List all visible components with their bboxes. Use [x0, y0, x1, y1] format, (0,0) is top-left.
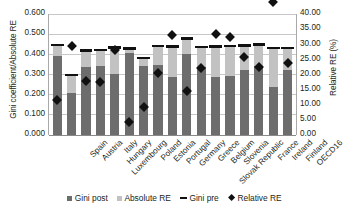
stacked-bar[interactable] [254, 45, 263, 135]
bar-segment-absolute-re[interactable] [153, 46, 162, 65]
bar-segment-gini-post[interactable] [269, 87, 278, 134]
bar-slot[interactable] [208, 14, 222, 135]
marker-gini-pre[interactable] [267, 47, 280, 50]
marker-gini-pre[interactable] [181, 37, 194, 40]
bar-segment-gini-post[interactable] [225, 76, 234, 135]
bar-slot[interactable] [237, 14, 251, 135]
bar-slot[interactable] [151, 14, 165, 135]
marker-gini-pre[interactable] [253, 43, 266, 46]
stacked-bar[interactable] [96, 50, 105, 135]
legend-label: Gini post [75, 193, 108, 203]
marker-gini-pre[interactable] [166, 45, 179, 48]
marker-gini-pre[interactable] [65, 74, 78, 77]
legend-item[interactable]: Absolute RE [117, 193, 171, 203]
legend-square-icon [117, 196, 122, 201]
bar-segment-absolute-re[interactable] [269, 48, 278, 87]
bar-segment-gini-post[interactable] [240, 70, 249, 135]
stacked-bar[interactable] [67, 75, 76, 135]
stacked-bar[interactable] [197, 47, 206, 135]
bar-segment-absolute-re[interactable] [225, 46, 234, 75]
marker-gini-pre[interactable] [123, 47, 136, 50]
marker-relative-re[interactable] [67, 41, 77, 51]
marker-relative-re[interactable] [167, 30, 177, 40]
legend-label: Absolute RE [124, 193, 171, 203]
y-tick-label-left: 0.500 [25, 28, 46, 37]
bar-group [49, 14, 296, 135]
x-axis-labels: SpainAustriaItalyHungaryLuxembourgPoland… [48, 136, 297, 196]
legend-item[interactable]: Gini post [67, 193, 108, 203]
bar-segment-gini-post[interactable] [283, 70, 292, 135]
legend-item[interactable]: Gini pre [180, 193, 219, 203]
bar-slot[interactable] [281, 14, 295, 135]
marker-gini-pre[interactable] [195, 46, 208, 49]
bar-slot[interactable] [252, 14, 266, 135]
stacked-bar[interactable] [225, 46, 234, 134]
legend-label: Relative RE [237, 193, 281, 203]
bar-segment-gini-post[interactable] [197, 67, 206, 134]
marker-gini-pre[interactable] [80, 49, 93, 52]
bar-slot[interactable] [194, 14, 208, 135]
stacked-bar[interactable] [81, 51, 90, 135]
y-tick-label-right: 10.00 [300, 99, 321, 108]
marker-gini-pre[interactable] [152, 45, 165, 48]
bar-slot[interactable] [108, 14, 122, 135]
bar-segment-absolute-re[interactable] [182, 39, 191, 54]
bar-slot[interactable] [64, 14, 78, 135]
legend-label: Gini pre [189, 193, 218, 203]
y-tick-label-left: 0.300 [25, 69, 46, 78]
bar-segment-gini-post[interactable] [211, 77, 220, 135]
bar-slot[interactable] [165, 14, 179, 135]
marker-relative-re[interactable] [225, 32, 235, 42]
bar-slot[interactable] [266, 14, 280, 135]
bar-slot[interactable] [122, 14, 136, 135]
y-tick-label-left: 0.200 [25, 89, 46, 98]
bar-segment-absolute-re[interactable] [67, 75, 76, 93]
bar-slot[interactable] [136, 14, 150, 135]
bar-segment-gini-post[interactable] [168, 77, 177, 135]
y-axis-left-ticks: 0.0000.1000.2000.3000.4000.5000.600 [14, 0, 45, 213]
bar-slot[interactable] [223, 14, 237, 135]
stacked-bar[interactable] [211, 46, 220, 134]
y-tick-label-right: 25.00 [300, 54, 321, 63]
marker-gini-pre[interactable] [137, 57, 150, 60]
y-tick-label-right: 5.00 [300, 114, 316, 123]
bar-segment-absolute-re[interactable] [168, 47, 177, 77]
marker-gini-pre[interactable] [94, 49, 107, 52]
marker-gini-pre[interactable] [238, 44, 251, 47]
bar-slot[interactable] [50, 14, 64, 135]
legend-item[interactable]: Relative RE [228, 193, 282, 203]
bar-segment-gini-post[interactable] [139, 66, 148, 135]
chart-container: Gini coefficient/Absolute RE Relative RE… [0, 0, 349, 213]
y-tick-label-right: 0.00 [300, 129, 316, 138]
stacked-bar[interactable] [153, 46, 162, 135]
stacked-bar[interactable] [53, 45, 62, 134]
bar-segment-gini-post[interactable] [67, 93, 76, 134]
bar-segment-gini-post[interactable] [110, 74, 119, 135]
marker-gini-pre[interactable] [51, 44, 64, 47]
stacked-bar[interactable] [269, 48, 278, 134]
bar-slot[interactable] [93, 14, 107, 135]
marker-gini-pre[interactable] [209, 45, 222, 48]
y-tick-label-right: 15.00 [300, 84, 321, 93]
bar-slot[interactable] [180, 14, 194, 135]
marker-relative-re[interactable] [268, 0, 278, 7]
y-tick-label-right: 35.00 [300, 23, 321, 32]
stacked-bar[interactable] [168, 47, 177, 135]
stacked-bar[interactable] [110, 47, 119, 134]
stacked-bar[interactable] [139, 58, 148, 135]
bar-segment-gini-post[interactable] [96, 66, 105, 135]
bar-segment-absolute-re[interactable] [81, 51, 90, 67]
legend-diamond-icon [228, 194, 235, 201]
marker-gini-pre[interactable] [281, 47, 294, 50]
marker-relative-re[interactable] [211, 29, 221, 39]
bar-segment-absolute-re[interactable] [96, 50, 105, 66]
y-tick-label-right: 20.00 [300, 69, 321, 78]
bar-segment-absolute-re[interactable] [211, 46, 220, 76]
marker-gini-pre[interactable] [224, 45, 237, 48]
y-tick-label-right: 40.00 [300, 8, 321, 17]
bar-segment-absolute-re[interactable] [53, 45, 62, 56]
y-tick-label-left: 0.400 [25, 49, 46, 58]
bar-slot[interactable] [79, 14, 93, 135]
bar-segment-gini-post[interactable] [254, 66, 263, 135]
y-tick-label-left: 0.600 [25, 8, 46, 17]
